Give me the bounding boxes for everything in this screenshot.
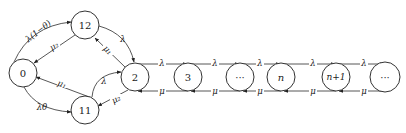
svg-text:λ: λ bbox=[100, 76, 106, 86]
node-0: 0 bbox=[9, 59, 37, 87]
svg-text:λ: λ bbox=[158, 58, 164, 68]
svg-text:3: 3 bbox=[185, 72, 191, 83]
svg-text:μ: μ bbox=[310, 86, 316, 96]
edge-label-2-11: μ₂ bbox=[110, 92, 123, 105]
edge-label-2-12: μ₁ bbox=[101, 43, 114, 56]
svg-text:λ: λ bbox=[360, 58, 366, 68]
node-ellipsis-2: ··· bbox=[370, 62, 400, 92]
svg-text:μ: μ bbox=[361, 86, 367, 96]
svg-text:λ(1−θ): λ(1−θ) bbox=[22, 18, 52, 45]
edge-label-0-12: λ(1−θ) bbox=[22, 18, 52, 45]
svg-text:n: n bbox=[278, 72, 284, 83]
svg-text:λ: λ bbox=[119, 34, 125, 44]
svg-text:λθ: λθ bbox=[36, 102, 48, 112]
state-transition-diagram: λ(1−θ) μ₂ λθ μ₁ λ μ₁ λ μ₂ λ μ λ μ λ μ bbox=[0, 0, 406, 133]
node-n: n bbox=[267, 63, 295, 91]
edge-12-to-2 bbox=[99, 26, 134, 62]
svg-text:12: 12 bbox=[79, 20, 92, 31]
node-n-plus-1: n+1 bbox=[322, 63, 350, 91]
svg-text:μ: μ bbox=[159, 86, 165, 96]
svg-text:n+1: n+1 bbox=[326, 72, 345, 82]
node-ellipsis-1: ··· bbox=[226, 63, 254, 91]
svg-text:μ: μ bbox=[257, 86, 263, 96]
svg-text:···: ··· bbox=[235, 72, 245, 83]
svg-text:11: 11 bbox=[79, 105, 92, 116]
svg-text:λ: λ bbox=[256, 58, 262, 68]
svg-text:2: 2 bbox=[132, 72, 138, 83]
edge-label-11-2: λ bbox=[100, 76, 106, 86]
svg-text:μ: μ bbox=[212, 86, 218, 96]
edge-label-12-2: λ bbox=[119, 34, 125, 44]
node-2: 2 bbox=[121, 63, 149, 91]
svg-text:λ: λ bbox=[211, 58, 217, 68]
edge-0-to-11 bbox=[24, 87, 71, 112]
svg-text:λ: λ bbox=[309, 58, 315, 68]
edge-label-0-11: λθ bbox=[36, 102, 48, 112]
svg-text:···: ··· bbox=[380, 72, 390, 83]
node-11: 11 bbox=[71, 96, 99, 124]
node-3: 3 bbox=[174, 63, 202, 91]
svg-text:0: 0 bbox=[20, 68, 26, 79]
node-12: 12 bbox=[71, 11, 99, 39]
edge-label-12-0: μ₂ bbox=[48, 39, 61, 53]
